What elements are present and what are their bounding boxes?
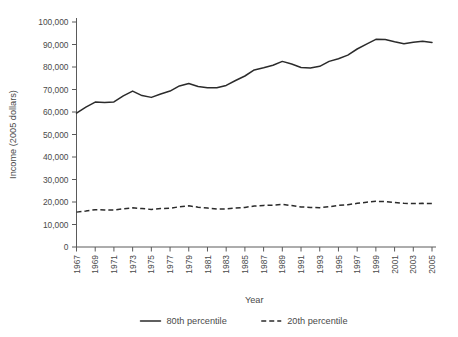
y-tick-label: 70,000: [43, 85, 69, 95]
x-tick-label: 1995: [334, 255, 344, 274]
y-tick-label: 10,000: [43, 220, 69, 230]
chart-canvas: 010,00020,00030,00040,00050,00060,00070,…: [0, 0, 458, 337]
x-tick-label: 1977: [165, 255, 175, 274]
series-line-20th-percentile: [77, 201, 433, 212]
x-tick-label: 1973: [128, 255, 138, 274]
income-percentile-line-chart: 010,00020,00030,00040,00050,00060,00070,…: [0, 0, 458, 337]
x-tick-label: 1981: [203, 255, 213, 274]
legend-label-80th-percentile: 80th percentile: [167, 316, 227, 326]
x-tick-label: 2003: [408, 255, 418, 274]
y-tick-label: 60,000: [43, 107, 69, 117]
y-tick-label: 20,000: [43, 197, 69, 207]
x-tick-label: 2001: [390, 255, 400, 274]
x-tick-label: 1969: [90, 255, 100, 274]
y-tick-label: 90,000: [43, 40, 69, 50]
x-tick-label: 1991: [296, 255, 306, 274]
y-tick-label: 80,000: [43, 62, 69, 72]
x-tick-label: 1971: [109, 255, 119, 274]
x-tick-label: 1999: [371, 255, 381, 274]
y-tick-label: 40,000: [43, 152, 69, 162]
y-tick-label: 50,000: [43, 130, 69, 140]
y-tick-label: 100,000: [38, 17, 69, 27]
x-tick-label: 1983: [221, 255, 231, 274]
x-tick-label: 1987: [259, 255, 269, 274]
x-tick-label: 1989: [277, 255, 287, 274]
x-tick-label: 1975: [146, 255, 156, 274]
x-tick-label: 1993: [315, 255, 325, 274]
y-axis-title: Income (2005 dollars): [8, 90, 18, 179]
series-line-80th-percentile: [77, 39, 433, 113]
y-tick-label: 0: [64, 242, 69, 252]
x-tick-label: 1967: [72, 255, 82, 274]
x-tick-label: 1979: [184, 255, 194, 274]
x-axis-title: Year: [245, 295, 264, 305]
x-tick-label: 2005: [427, 255, 437, 274]
x-tick-label: 1985: [240, 255, 250, 274]
legend-label-20th-percentile: 20th percentile: [287, 316, 347, 326]
x-tick-label: 1997: [352, 255, 362, 274]
y-tick-label: 30,000: [43, 175, 69, 185]
